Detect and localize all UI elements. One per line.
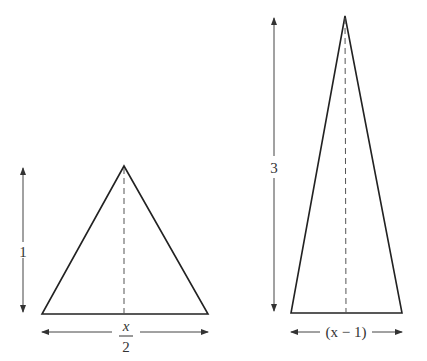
right-height-label: 3 [270,160,278,176]
right-triangle-figure: 3 (x − 1) [270,16,402,341]
right-base-dimension: (x − 1) [291,324,402,341]
left-base-numerator: x [122,318,130,334]
left-base-denominator: 2 [122,339,130,355]
left-base-dimension: x 2 [42,318,208,355]
left-height-dimension: 1 [19,168,27,312]
right-base-label: (x − 1) [326,324,367,341]
left-triangle-figure: 1 x 2 [19,166,208,355]
right-triangle [291,16,402,313]
left-height-label: 1 [19,244,27,260]
left-triangle [42,166,208,314]
right-triangle-altitude [345,18,346,313]
diagram-canvas: 1 x 2 3 (x − 1) [0,0,427,361]
right-height-dimension: 3 [270,18,278,311]
